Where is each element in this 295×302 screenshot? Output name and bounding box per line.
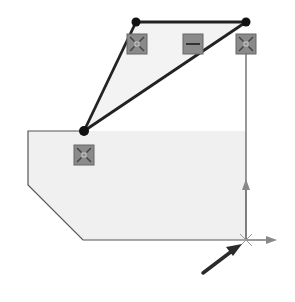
sketch-point[interactable] bbox=[132, 18, 141, 27]
sketch-region[interactable] bbox=[28, 131, 246, 240]
coincident-relation-icon[interactable] bbox=[74, 145, 94, 165]
x-axis-arrow-icon bbox=[266, 236, 277, 244]
coincident-relation-icon[interactable] bbox=[236, 34, 256, 54]
sketch-point[interactable] bbox=[79, 126, 89, 136]
horizontal-relation-icon[interactable] bbox=[183, 34, 203, 54]
coincident-relation-icon[interactable] bbox=[127, 34, 147, 54]
cursor-arrow-icon bbox=[203, 244, 242, 273]
origin-indicator bbox=[240, 179, 277, 246]
sketch-canvas[interactable] bbox=[0, 0, 295, 302]
sketch-point[interactable] bbox=[242, 18, 251, 27]
